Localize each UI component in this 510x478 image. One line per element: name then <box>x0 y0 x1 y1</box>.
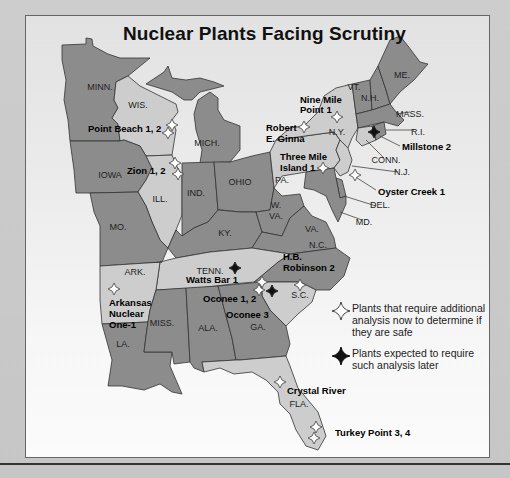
state-label-minn: MINN. <box>87 82 113 92</box>
state-label-wis: WIS. <box>128 100 148 110</box>
state-label-iowa: IOWA <box>98 170 122 180</box>
plant-label-watts-bar-1: Watts Bar 1 <box>186 274 239 285</box>
state-label-s-c: S.C. <box>291 290 309 300</box>
plant-label-point-beach-1-2: Point Beach 1, 2 <box>88 123 161 134</box>
state-label-w-va: W.VA. <box>269 200 283 221</box>
state-label-ky: KY. <box>218 228 231 238</box>
plant-label-oyster-creek-1: Oyster Creek 1 <box>378 186 446 197</box>
plant-label-nuclear: Nuclear <box>109 308 144 319</box>
state-label-mich: MICH. <box>194 138 220 148</box>
legend: Plants that require additional analysis … <box>330 302 490 380</box>
filled-diamond-icon <box>330 345 352 367</box>
plant-label-crystal-river: Crystal River <box>287 385 346 396</box>
plant-label-arkansas: Arkansas <box>109 297 152 308</box>
callout-line <box>354 176 376 190</box>
state-label-pa: PA. <box>275 175 289 185</box>
state-label-vt: VT. <box>347 82 360 92</box>
state-label-mo: MO. <box>110 222 127 232</box>
plant-label-robinson-2: Robinson 2 <box>283 262 335 273</box>
state-label-ill: ILL. <box>152 194 167 204</box>
callout-line <box>380 136 400 146</box>
open-diamond-icon <box>330 300 352 322</box>
state-label-fla: FLA. <box>289 399 308 409</box>
plant-label-e-ginna: E. Ginna <box>266 133 305 144</box>
callout-line <box>352 166 398 172</box>
legend-item-open: Plants that require additional analysis … <box>330 302 490 338</box>
legend-text-open: Plants that require additional analysis … <box>352 302 490 338</box>
state-label-n-y: N.Y. <box>329 127 345 137</box>
legend-text-filled: Plants expected to require such analysis… <box>352 347 490 371</box>
legend-item-filled: Plants expected to require such analysis… <box>330 347 490 371</box>
state-label-ga: GA. <box>250 322 266 332</box>
state-label-ark: ARK. <box>124 267 145 277</box>
state-label-md: MD. <box>356 217 373 227</box>
plant-label-island-1: Island 1 <box>280 162 316 173</box>
plant-label-zion-1-2: Zion 1, 2 <box>127 165 166 176</box>
plant-label-oconee-3: Oconee 3 <box>226 309 269 320</box>
plant-label-three-mile: Three Mile <box>280 151 327 162</box>
plant-label-millstone-2: Millstone 2 <box>402 141 451 152</box>
state-label-del: DEL. <box>370 200 390 210</box>
plant-label-oconee-1-2: Oconee 1, 2 <box>203 293 256 304</box>
state-label-miss: MISS. <box>150 318 175 328</box>
plant-label-robert: Robert <box>266 122 297 133</box>
state-label-ind: IND. <box>187 188 205 198</box>
state-label-mass: MASS. <box>396 109 424 119</box>
map-title: Nuclear Plants Facing Scrutiny <box>123 23 406 45</box>
state-label-ala: ALA. <box>198 323 218 333</box>
state-label-r-i: R.I. <box>411 127 425 137</box>
plant-label-turkey-point-3-4: Turkey Point 3, 4 <box>335 427 411 438</box>
plant-label-point-1: Point 1 <box>300 104 332 115</box>
state-label-n-j: N.J. <box>394 167 410 177</box>
state-label-n-h: N.H. <box>361 93 379 103</box>
state-label-ohio: OHIO <box>228 177 251 187</box>
plant-label-one-1: One-1 <box>109 319 137 330</box>
state-label-la: LA. <box>116 339 130 349</box>
state-label-conn: CONN. <box>372 155 401 165</box>
state-label-n-c: N.C. <box>309 240 327 250</box>
state-label-va: VA. <box>305 224 319 234</box>
us-east-map: MINN.WIS.MICH.IOWAILL.IND.OHIOMO.KY.W.VA… <box>0 0 510 478</box>
state-label-me: ME. <box>394 70 410 80</box>
plant-label-h-b: H.B. <box>283 251 302 262</box>
